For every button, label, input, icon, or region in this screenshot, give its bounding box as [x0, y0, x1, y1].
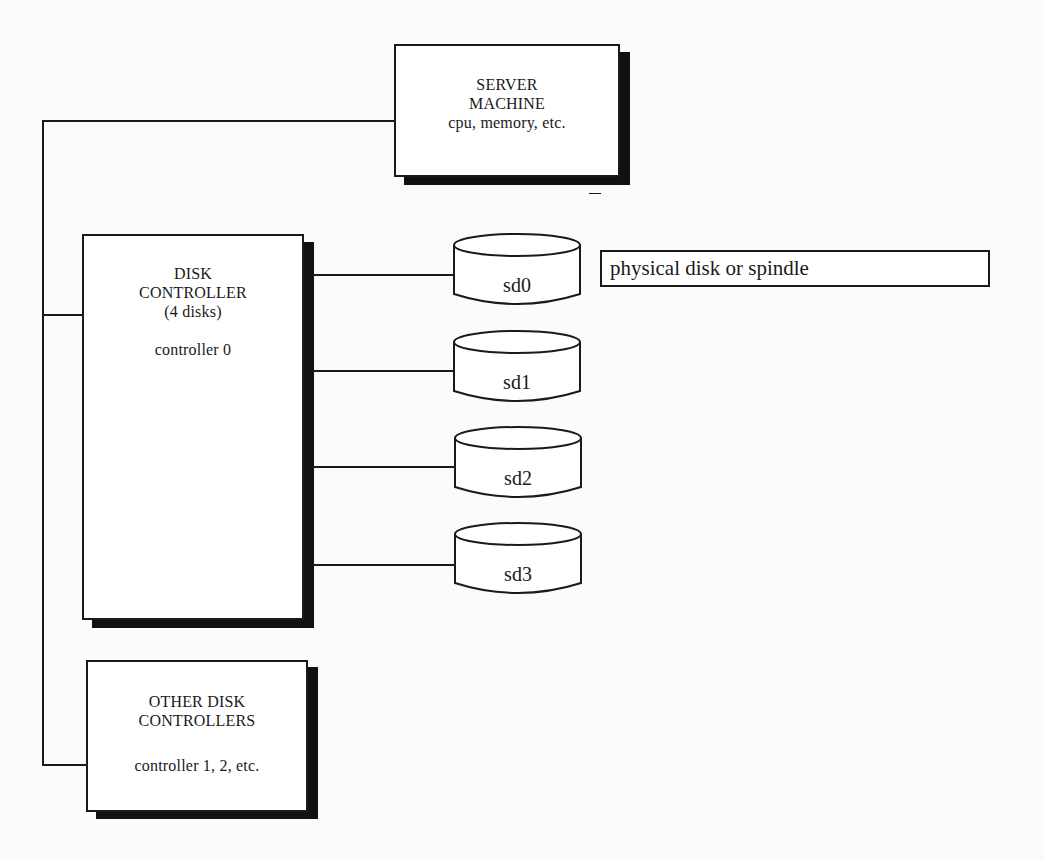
link-sd3 — [314, 564, 454, 566]
bus-line-vertical — [42, 120, 44, 765]
physical-disk-callout: physical disk or spindle — [600, 250, 990, 287]
server-subtitle: cpu, memory, etc. — [396, 113, 618, 132]
disk-sd0: sd0 — [453, 232, 585, 312]
disk-cylinder-icon — [453, 329, 585, 409]
link-sd1 — [314, 370, 454, 372]
other-disk-controllers-box: OTHER DISK CONTROLLERS controller 1, 2, … — [86, 660, 308, 812]
stray-mark — [589, 193, 601, 194]
disk-sd3: sd3 — [454, 521, 586, 601]
server-title-line1: SERVER — [396, 75, 618, 94]
server-machine-box: SERVER MACHINE cpu, memory, etc. — [394, 44, 620, 177]
disk-cylinder-icon — [454, 425, 586, 505]
controller0-disk-count: (4 disks) — [84, 302, 302, 321]
bus-line-top — [42, 120, 396, 122]
disk-label: sd2 — [454, 467, 582, 490]
disk-label: sd0 — [453, 274, 581, 297]
bus-link-controller0 — [42, 314, 84, 316]
disk-cylinder-icon — [453, 232, 585, 312]
bus-link-other-controllers — [42, 764, 88, 766]
controller0-id: controller 0 — [84, 340, 302, 359]
link-sd0 — [314, 274, 454, 276]
other-controllers-title-line1: OTHER DISK — [88, 692, 306, 711]
disk-cylinder-icon — [454, 521, 586, 601]
disk-label: sd3 — [454, 563, 582, 586]
other-controllers-ids: controller 1, 2, etc. — [88, 756, 306, 775]
controller0-title-line1: DISK — [84, 264, 302, 283]
disk-label: sd1 — [453, 371, 581, 394]
disk-sd1: sd1 — [453, 329, 585, 409]
other-controllers-title-line2: CONTROLLERS — [88, 711, 306, 730]
server-title-line2: MACHINE — [396, 94, 618, 113]
controller0-title-line2: CONTROLLER — [84, 283, 302, 302]
link-sd2 — [314, 466, 454, 468]
disk-controller-0-box: DISK CONTROLLER (4 disks) controller 0 — [82, 234, 304, 620]
disk-sd2: sd2 — [454, 425, 586, 505]
